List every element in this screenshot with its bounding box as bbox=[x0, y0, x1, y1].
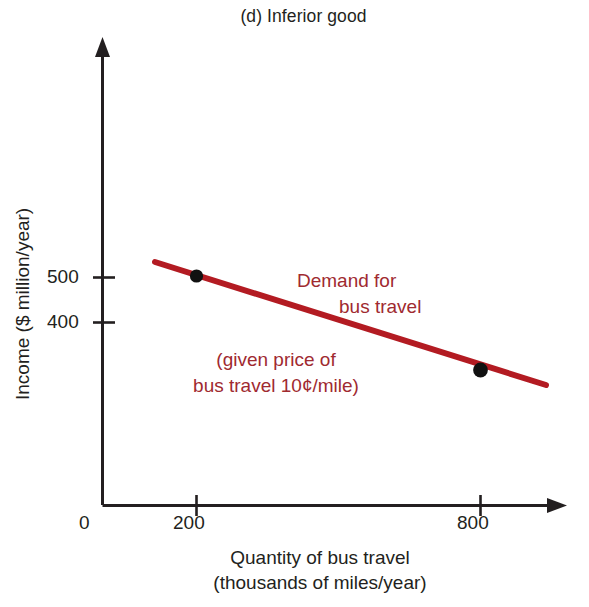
x-tick-label-origin: 0 bbox=[79, 512, 90, 534]
x-axis bbox=[103, 498, 568, 513]
x-axis-title: Quantity of bus travel (thousands of mil… bbox=[120, 545, 520, 595]
curve-label-line1: Demand for bbox=[297, 270, 396, 291]
x-tick-label-800: 800 bbox=[457, 512, 489, 534]
condition-line1: (given price of bbox=[216, 349, 335, 370]
y-axis bbox=[95, 37, 110, 505]
data-point-a bbox=[190, 269, 203, 282]
chart-figure: (d) Inferior good 500 400 0 bbox=[0, 0, 589, 607]
y-tick-label-400: 400 bbox=[47, 311, 79, 333]
curve-label-annotation: Demand for bus travel bbox=[297, 268, 421, 320]
data-point-b bbox=[473, 363, 488, 378]
curve-label-line2: bus travel bbox=[297, 294, 421, 320]
x-tick-label-200: 200 bbox=[173, 512, 205, 534]
x-axis-title-line1: Quantity of bus travel bbox=[230, 547, 410, 568]
condition-line2: bus travel 10¢/mile) bbox=[166, 373, 386, 399]
y-tick-label-500: 500 bbox=[47, 266, 79, 288]
y-axis-title: Income ($ million/year) bbox=[12, 100, 34, 400]
condition-annotation: (given price of bus travel 10¢/mile) bbox=[166, 347, 386, 399]
x-axis-title-line2: (thousands of miles/year) bbox=[120, 570, 520, 595]
